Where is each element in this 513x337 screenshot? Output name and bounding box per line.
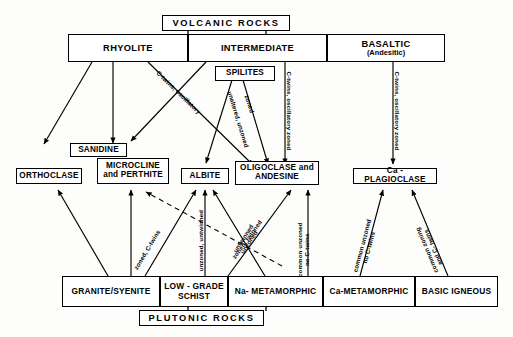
node-sanidine-label: SANIDINE <box>76 146 121 155</box>
banner-volcanic-rocks: VOLCANIC ROCKS <box>162 15 290 31</box>
edge-label-ca-oligoclase-line2: no C-twins <box>303 233 310 266</box>
node-albite[interactable]: ALBITE <box>181 168 229 184</box>
edge-label-ca-oligoclase-line1: common unzoned <box>296 223 303 277</box>
source-schist-label: SCHIST <box>176 292 212 301</box>
group-basaltic[interactable]: BASALTIC (Andesitic) <box>327 34 445 62</box>
node-ca-plagioclase[interactable]: Ca - PLAGIOCLASE <box>353 168 437 184</box>
banner-plutonic-rocks: PLUTONIC ROCKS <box>139 310 264 326</box>
node-spilites[interactable]: SPILITES <box>215 66 275 81</box>
source-basic-igneous-label: BASIC IGNEOUS <box>420 287 494 296</box>
node-orthoclase-label: ORTHOCLASE <box>17 172 80 181</box>
source-basic-igneous[interactable]: BASIC IGNEOUS <box>415 276 498 307</box>
banner-plutonic-rocks-label: PLUTONIC ROCKS <box>147 313 257 323</box>
source-ca-metamorphic[interactable]: Ca-METAMORPHIC <box>323 276 415 307</box>
source-granite-syenite-label: GRANITE/SYENITE <box>70 287 153 296</box>
node-perthite-label: and PERTHITE <box>101 171 165 180</box>
group-intermediate[interactable]: INTERMEDIATE <box>188 34 327 62</box>
source-na-metamorphic-label: Na- METAMORPHIC <box>233 287 318 296</box>
edge-label-ca-metamorphic-to-oligoclase: common unzoned no C-twins <box>297 223 311 277</box>
node-spilites-label: SPILITES <box>224 69 266 78</box>
node-andesine-label: ANDESINE <box>253 173 301 182</box>
edge-label-basaltic-to-ca-plagioclase: C-twins, oscillatory zoned <box>394 71 401 150</box>
node-orthoclase[interactable]: ORTHOCLASE <box>16 168 82 184</box>
diagram-canvas: VOLCANIC ROCKS RHYOLITE INTERMEDIATE BAS… <box>0 0 513 337</box>
node-oligoclase-andesine[interactable]: OLIGOCLASE and ANDESINE <box>235 161 319 185</box>
banner-volcanic-rocks-label: VOLCANIC ROCKS <box>170 18 281 28</box>
node-albite-label: ALBITE <box>188 172 223 181</box>
source-na-metamorphic[interactable]: Na- METAMORPHIC <box>228 276 323 307</box>
source-granite-syenite[interactable]: GRANITE/SYENITE <box>62 276 160 307</box>
node-ca-plagioclase-label: Ca - PLAGIOCLASE <box>354 167 436 185</box>
node-microcline-perthite[interactable]: MICROCLINE and PERTHITE <box>97 158 169 184</box>
edge-label-intermediate-to-oligoclase: C-twins, oscillatory zoned <box>286 71 293 150</box>
group-rhyolite[interactable]: RHYOLITE <box>68 34 188 62</box>
source-ca-metamorphic-label: Ca-METAMORPHIC <box>328 287 411 296</box>
edge-label-schist-to-albite: unzoned, untwinned <box>198 210 205 272</box>
node-sanidine[interactable]: SANIDINE <box>70 143 127 157</box>
group-intermediate-label: INTERMEDIATE <box>219 43 296 53</box>
source-low-grade-schist[interactable]: LOW - GRADE SCHIST <box>160 276 228 307</box>
group-rhyolite-label: RHYOLITE <box>101 43 155 53</box>
group-basaltic-sublabel: (Andesitic) <box>365 49 407 57</box>
